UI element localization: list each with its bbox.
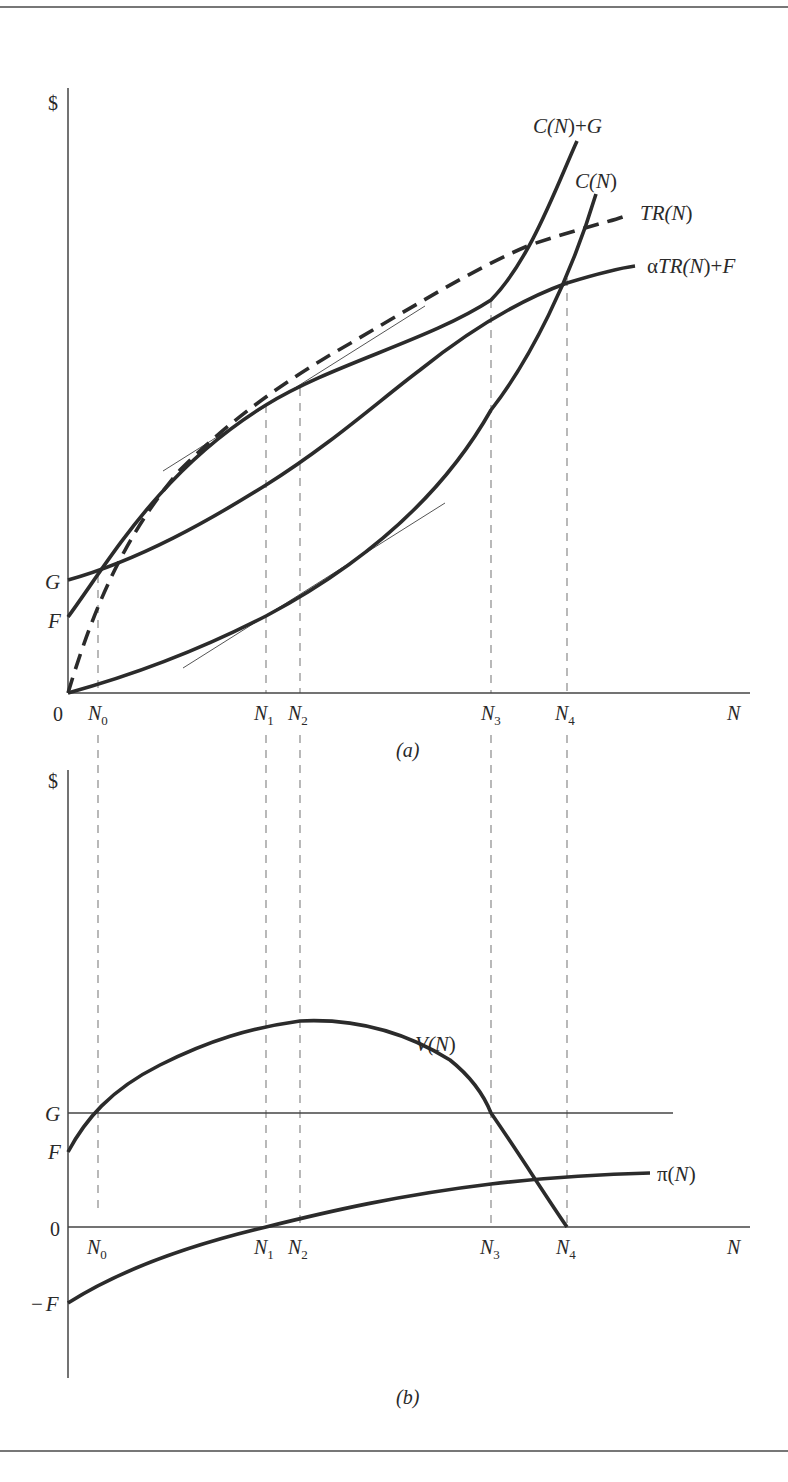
panel-a-x-tick-n1: N1 (253, 702, 274, 728)
panel-a-x-tick-n3: N3 (480, 702, 501, 728)
panel-b-caption: (b) (396, 1386, 420, 1409)
inter-panel-guides (98, 735, 567, 1225)
panel-a-caption: (a) (396, 739, 420, 762)
curve-c-plus-g (68, 141, 577, 617)
panel-a: $ G F 0 N0 N1 N2 N3 N4 N C(N)+G C(N) TR(… (45, 88, 750, 762)
panel-b-x-tick-n3: N3 (479, 1236, 500, 1262)
panel-b-x-tick-n1: N1 (253, 1236, 274, 1262)
panel-b-y-tick-f: F (47, 1140, 61, 1164)
panel-a-origin-label: 0 (53, 703, 63, 725)
panel-b-y-axis-label: $ (48, 770, 58, 792)
panel-a-x-tick-n0: N0 (87, 702, 108, 728)
label-v: V(N) (415, 1032, 456, 1056)
panel-a-x-ticks: N0 N1 N2 N3 N4 N (87, 702, 742, 728)
curve-tr (68, 215, 628, 693)
label-c: C(N) (575, 169, 617, 193)
figure-svg: $ G F 0 N0 N1 N2 N3 N4 N C(N)+G C(N) TR(… (0, 0, 788, 1482)
panel-b: $ G F 0 −F N0 N1 N2 N3 N4 N V(N) π(N) (b… (31, 770, 750, 1409)
panel-a-y-tick-g: G (45, 570, 60, 594)
label-alpha-tr-plus-f: αTR(N)+F (647, 254, 735, 278)
label-pi: π(N) (657, 1162, 696, 1186)
curve-v (68, 1021, 567, 1227)
panel-b-x-tick-n4: N4 (555, 1236, 576, 1262)
panel-b-x-tick-n2: N2 (287, 1236, 308, 1262)
panel-b-x-axis-label: N (726, 1236, 742, 1258)
panel-a-x-axis-label: N (726, 702, 742, 724)
panel-b-y-tick-zero: 0 (50, 1218, 60, 1240)
panel-b-y-tick-g: G (45, 1102, 60, 1126)
panel-a-y-axis-label: $ (48, 92, 58, 114)
label-c-plus-g: C(N)+G (533, 114, 602, 138)
panel-a-x-tick-n4: N4 (554, 702, 575, 728)
panel-a-x-tick-n2: N2 (287, 702, 308, 728)
panel-a-y-tick-f: F (47, 609, 61, 633)
tangent-line-lower (183, 503, 445, 668)
panel-b-x-tick-n0: N0 (86, 1236, 107, 1262)
label-tr: TR(N) (640, 201, 693, 225)
panel-b-y-tick-neg-f: −F (31, 1292, 59, 1316)
